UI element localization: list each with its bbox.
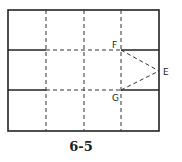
vertical-creases bbox=[46, 10, 121, 131]
point-label-F: F bbox=[112, 40, 117, 50]
point-label-G: G bbox=[112, 93, 119, 103]
origami-fold-diagram: F E G bbox=[0, 0, 182, 162]
crease-G-E bbox=[121, 71, 159, 90]
crease-F-E bbox=[121, 50, 159, 71]
figure-caption: 6-5 bbox=[0, 139, 162, 154]
diagonal-creases bbox=[121, 50, 159, 90]
point-label-E: E bbox=[163, 67, 169, 77]
paper-outline bbox=[8, 10, 159, 131]
